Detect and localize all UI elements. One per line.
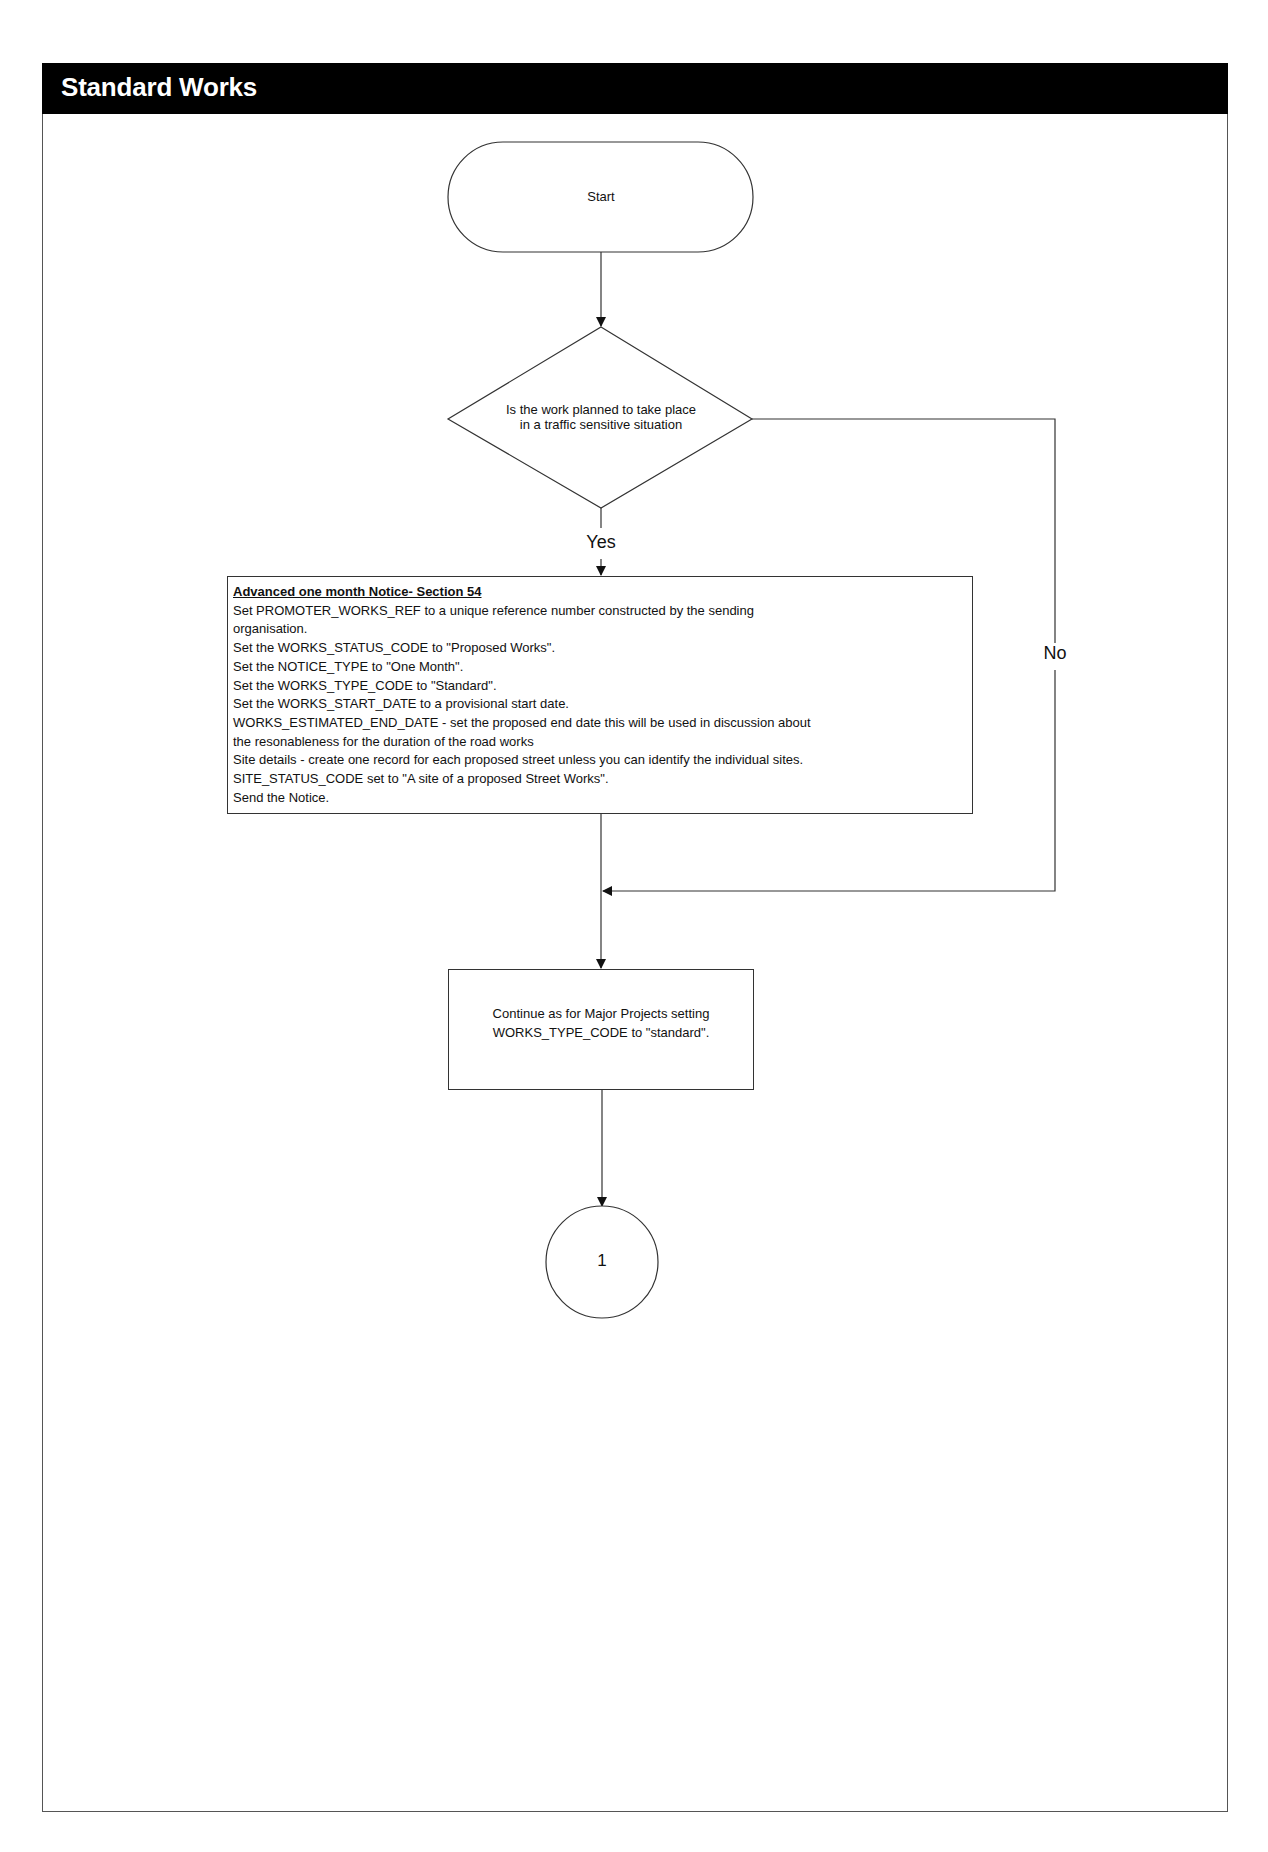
- notice-line: Set the WORKS_START_DATE to a provisiona…: [233, 695, 967, 714]
- flowchart-connectors: [0, 0, 1268, 1852]
- continue-line-2: WORKS_TYPE_CODE to "standard".: [493, 1023, 710, 1042]
- process-continue-box: Continue as for Major Projects setting W…: [448, 969, 754, 1090]
- notice-title: Advanced one month Notice- Section 54: [233, 583, 967, 602]
- continue-line-1: Continue as for Major Projects setting: [493, 1004, 710, 1023]
- yes-label: Yes: [571, 532, 631, 553]
- decision-text: Is the work planned to take place in a t…: [470, 402, 732, 432]
- notice-line: Site details - create one record for eac…: [233, 751, 967, 770]
- notice-line: WORKS_ESTIMATED_END_DATE - set the propo…: [233, 714, 967, 733]
- notice-line: organisation.: [233, 620, 967, 639]
- notice-line: Send the Notice.: [233, 789, 967, 808]
- notice-line: Set the WORKS_STATUS_CODE to "Proposed W…: [233, 639, 967, 658]
- process-notice-box: Advanced one month Notice- Section 54 Se…: [227, 576, 973, 814]
- notice-line: the resonableness for the duration of th…: [233, 733, 967, 752]
- decision-line-1: Is the work planned to take place: [470, 402, 732, 417]
- start-label: Start: [551, 189, 651, 204]
- notice-line: Set the NOTICE_TYPE to "One Month".: [233, 658, 967, 677]
- connector-label: 1: [572, 1251, 632, 1271]
- notice-line: Set PROMOTER_WORKS_REF to a unique refer…: [233, 602, 967, 621]
- decision-line-2: in a traffic sensitive situation: [470, 417, 732, 432]
- notice-line: Set the WORKS_TYPE_CODE to "Standard".: [233, 677, 967, 696]
- no-label: No: [1025, 643, 1085, 664]
- notice-line: SITE_STATUS_CODE set to "A site of a pro…: [233, 770, 967, 789]
